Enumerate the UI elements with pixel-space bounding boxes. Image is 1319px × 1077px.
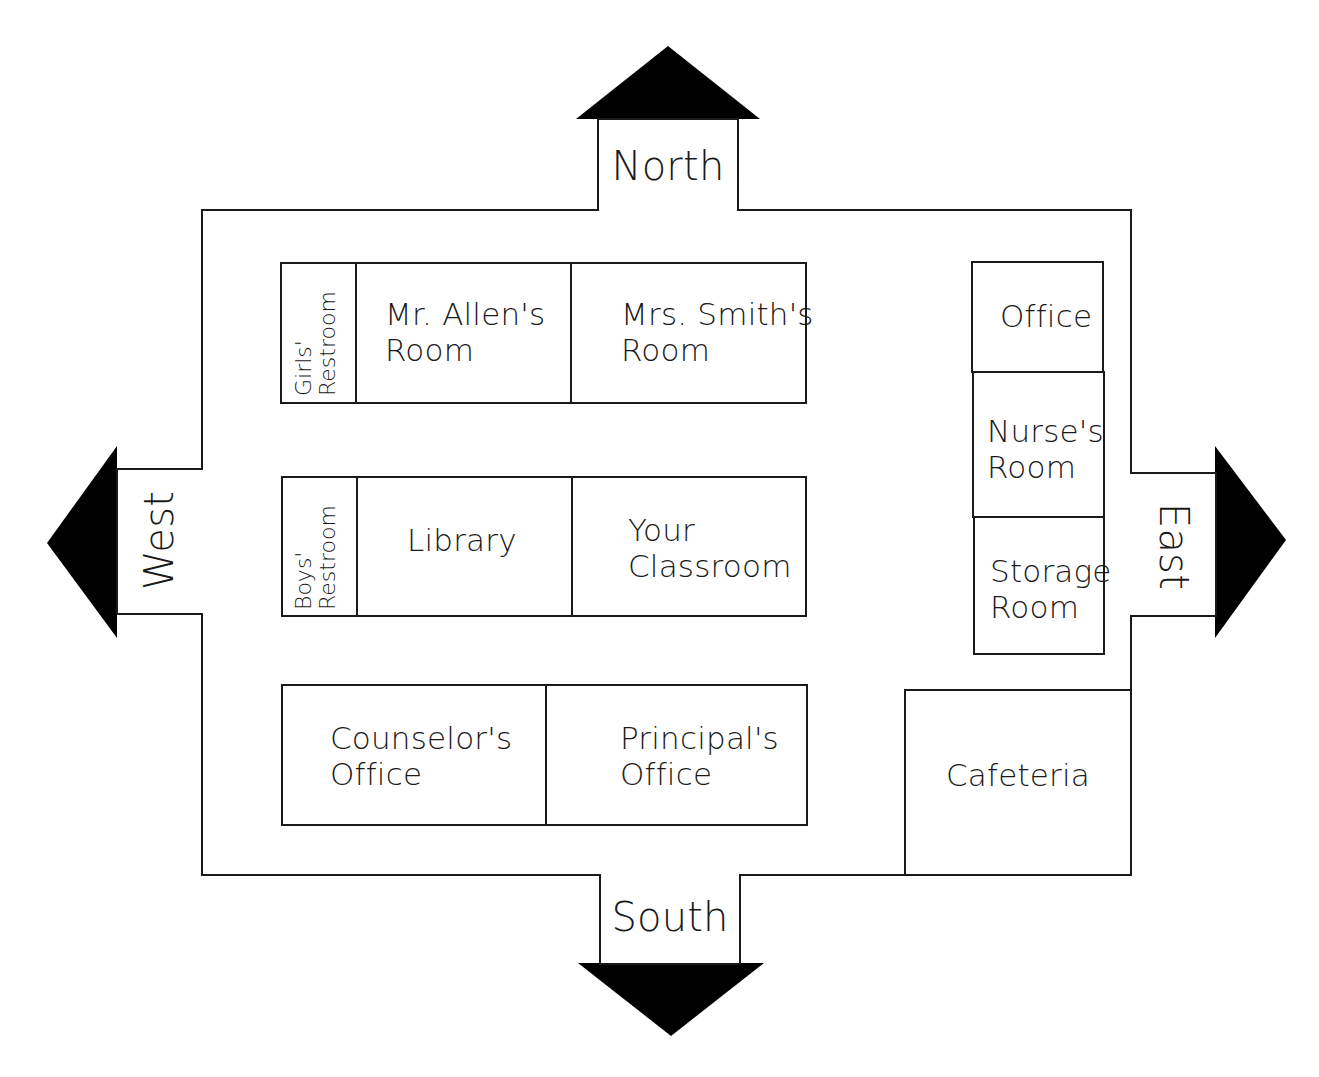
nurses-room-label: Nurse's Room — [987, 413, 1104, 485]
principals-office-label: Principal's Office — [620, 720, 779, 792]
office-label: Office — [1000, 298, 1092, 334]
storage-room-label: Storage Room — [990, 553, 1112, 625]
east-label: East — [1151, 475, 1197, 618]
mr-allens-room-label: Mr. Allen's Room — [385, 296, 545, 368]
library-label: Library — [407, 522, 517, 558]
girls-restroom-label: Girls' Restroom — [292, 266, 340, 396]
counselors-office-label: Counselor's Office — [330, 720, 512, 792]
boys-restroom-label: Boys' Restroom — [292, 480, 340, 610]
cafeteria-label: Cafeteria — [904, 757, 1132, 793]
your-classroom-label: Your Classroom — [628, 512, 792, 584]
mrs-smiths-room-label: Mrs. Smith's Room — [621, 296, 814, 368]
